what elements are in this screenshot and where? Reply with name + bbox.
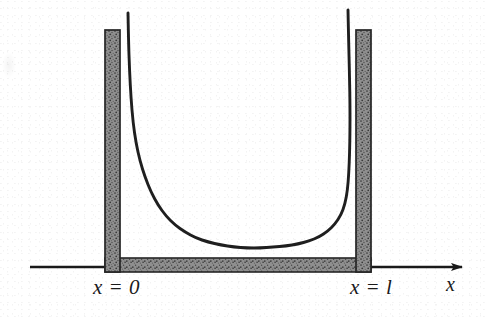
potential-well-figure: x = 0 x = l x (0, 0, 488, 318)
potential-energy-curve (128, 10, 350, 248)
left-boundary-label: x = 0 (93, 277, 140, 298)
left-wall-barrier (105, 30, 120, 272)
x-axis-label: x (446, 274, 455, 294)
well-floor-barrier (105, 258, 371, 272)
right-boundary-label: x = l (350, 277, 392, 298)
right-wall-barrier (356, 30, 371, 272)
figure-canvas (0, 0, 488, 318)
